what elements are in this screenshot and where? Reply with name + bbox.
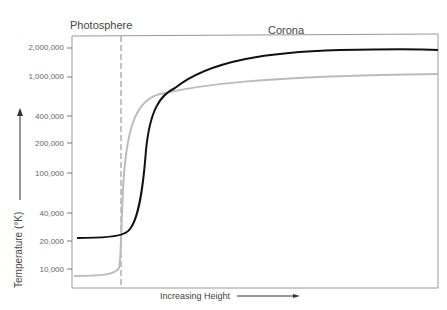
temperature-chart <box>0 0 447 310</box>
gray-temperature-curve <box>74 74 438 276</box>
plot-frame <box>72 34 438 288</box>
right-arrow-icon <box>293 294 300 298</box>
black-temperature-curve <box>77 49 438 238</box>
y-ticks <box>67 48 72 269</box>
up-arrow-icon <box>17 108 23 116</box>
